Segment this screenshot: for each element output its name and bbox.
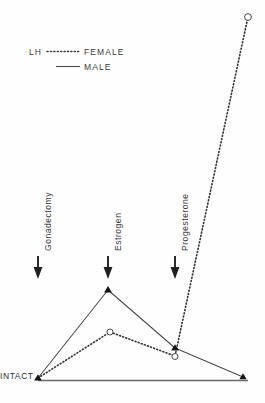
annotation-label-intact: INTACT: [0, 371, 34, 381]
annotation-label-progesterone: Progesterone: [180, 193, 190, 251]
annotation-label-estrogen: Estrogen: [113, 213, 123, 251]
legend-item-male: MALE: [84, 62, 112, 72]
series-markers-male: [34, 286, 247, 381]
arrow-estrogen-icon: [104, 256, 113, 279]
data-point-female-final: [245, 14, 252, 21]
arrow-gonadectomy-icon: [34, 256, 43, 279]
legend-measure-label: LH: [29, 47, 42, 57]
data-point-male-estrogen: [104, 286, 112, 292]
series-line-male: [38, 290, 243, 378]
data-point-female-progesterone: [172, 354, 178, 360]
data-point-female-estrogen: [107, 329, 113, 335]
annotation-label-gonadectomy: Gonadectomy: [43, 192, 53, 251]
arrow-progesterone-icon: [171, 256, 180, 279]
figure-container: LH FEMALE MALE Gonadectomy Estrogen Prog…: [0, 0, 265, 403]
chart-plot-area: [0, 0, 265, 403]
series-line-female: [38, 17, 248, 378]
legend-item-female: FEMALE: [84, 47, 125, 57]
